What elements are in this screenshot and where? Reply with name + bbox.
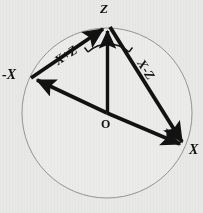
vector-diagram-figure: Z -X X O X+Z X-Z — [0, 0, 203, 213]
vector-diagram-canvas — [0, 0, 203, 213]
point-label-negative-x: -X — [2, 68, 16, 82]
point-label-origin: O — [101, 118, 110, 130]
point-label-x: X — [189, 143, 198, 157]
point-label-z: Z — [100, 2, 108, 15]
